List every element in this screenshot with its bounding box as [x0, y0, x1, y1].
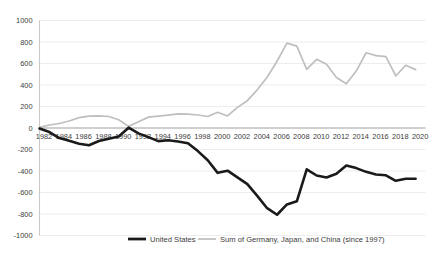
x-tick-label: 2000 [214, 132, 230, 141]
y-tick-label: -200 [18, 145, 33, 154]
x-tick-label: 1996 [174, 132, 190, 141]
y-tick-label: 600 [20, 59, 32, 68]
chart-legend: United StatesSum of Germany, Japan, and … [128, 235, 385, 244]
x-tick-label: 1986 [75, 132, 91, 141]
x-tick-label: 2010 [313, 132, 329, 141]
data-series-lines [40, 43, 416, 215]
y-tick-label: -800 [18, 210, 33, 219]
y-tick-label: 0 [28, 124, 32, 133]
y-tick-label: 400 [20, 81, 32, 90]
chart-container: 10008006004002000-200-400-600-800-1000 1… [0, 0, 440, 261]
x-axis-tick-labels: 1982198419861988199019921994199619982000… [36, 132, 429, 141]
x-tick-label: 2006 [273, 132, 289, 141]
y-tick-label: -600 [18, 188, 33, 197]
x-tick-label: 2004 [254, 132, 270, 141]
y-tick-label: 1000 [16, 16, 32, 25]
x-tick-label: 2020 [412, 132, 428, 141]
legend-label: United States [150, 235, 196, 244]
y-tick-label: 800 [20, 38, 32, 47]
x-tick-label: 2016 [372, 132, 388, 141]
x-tick-label: 1998 [194, 132, 210, 141]
x-tick-label: 2008 [293, 132, 309, 141]
y-tick-label: -400 [18, 167, 33, 176]
legend-label: Sum of Germany, Japan, and China (since … [220, 235, 385, 244]
y-tick-label: 200 [20, 102, 32, 111]
y-tick-label: -1000 [14, 231, 33, 240]
x-tick-label: 2018 [392, 132, 408, 141]
y-axis-tick-labels: 10008006004002000-200-400-600-800-1000 [14, 16, 33, 240]
x-tick-label: 2014 [352, 132, 368, 141]
line-chart: 10008006004002000-200-400-600-800-1000 1… [0, 0, 440, 261]
x-tick-label: 2012 [333, 132, 349, 141]
x-tick-label: 2002 [234, 132, 250, 141]
